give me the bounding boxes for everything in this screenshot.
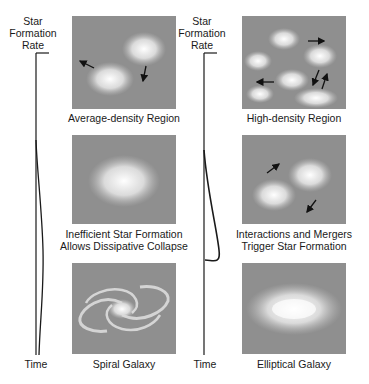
caption-interactions-and-mergers: Interactions and Mergers Trigger Star Fo… (219, 228, 369, 252)
caption-line: Average-density Region (49, 112, 199, 124)
label-line: Formation (172, 27, 232, 39)
caption-line: Interactions and Mergers (219, 228, 369, 240)
right-y-axis-label: Star Formation Rate (172, 15, 232, 51)
caption-average-density-region: Average-density Region (49, 112, 199, 124)
panel-inefficient-star-formation (72, 135, 176, 224)
caption-high-density-region: High-density Region (219, 112, 369, 124)
caption-inefficient-star-formation: Inefficient Star Formation Allows Dissip… (49, 228, 199, 252)
panel-elliptical-galaxy (242, 263, 346, 354)
left-sfr-plot (25, 50, 55, 360)
left-y-axis-label: Star Formation Rate (3, 15, 63, 51)
caption-elliptical-galaxy: Elliptical Galaxy (219, 358, 369, 370)
panel-spiral-galaxy (72, 263, 176, 354)
caption-spiral-galaxy: Spiral Galaxy (49, 358, 199, 370)
caption-line: Trigger Star Formation (219, 240, 369, 252)
caption-line: Elliptical Galaxy (219, 358, 369, 370)
label-line: Star (172, 15, 232, 27)
label-line: Star (3, 15, 63, 27)
caption-line: Spiral Galaxy (49, 358, 199, 370)
label-line: Formation (3, 27, 63, 39)
right-sfr-plot (195, 50, 235, 360)
panel-average-density-region (72, 16, 176, 109)
panel-interactions-and-mergers (242, 135, 346, 224)
caption-line: Inefficient Star Formation (49, 228, 199, 240)
panel-high-density-region (242, 16, 346, 109)
caption-line: Allows Dissipative Collapse (49, 240, 199, 252)
caption-line: High-density Region (219, 112, 369, 124)
